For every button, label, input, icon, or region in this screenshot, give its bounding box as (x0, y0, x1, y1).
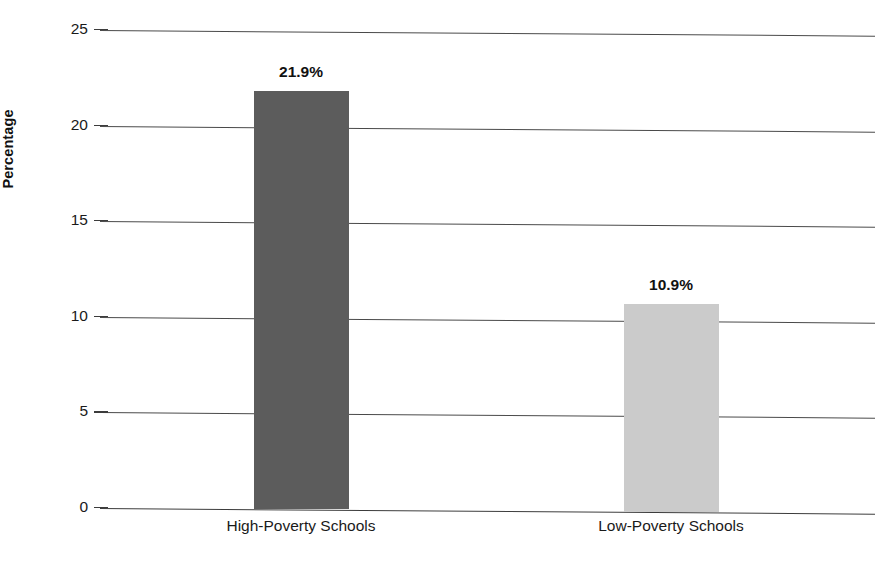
gridline-0 (100, 508, 875, 515)
bar-low-poverty[interactable] (624, 304, 719, 512)
y-axis-tick-mark (94, 125, 108, 126)
x-axis-category-label: High-Poverty Schools (161, 517, 441, 535)
y-axis-tick-label: 20 (28, 117, 88, 133)
gridline-15 (100, 221, 875, 228)
y-axis-tick-mark (94, 220, 108, 221)
y-axis-tick-label: 5 (28, 403, 88, 419)
y-axis-title: Percentage (0, 84, 24, 214)
y-axis-tick-mark (94, 316, 108, 317)
y-axis-tick-mark (94, 411, 108, 412)
gridline-20 (100, 126, 875, 133)
bar-chart: Percentage 0510152025 High-Poverty Schoo… (0, 0, 892, 564)
y-axis-tick-label: 25 (28, 21, 88, 37)
bar-value-label: 10.9% (601, 276, 741, 294)
gridline-25 (100, 30, 875, 37)
y-axis-tick-mark (94, 29, 108, 30)
y-axis-tick-label: 10 (28, 308, 88, 324)
bar-value-label: 21.9% (231, 63, 371, 81)
y-axis-tick-label: 15 (28, 212, 88, 228)
y-axis-tick-label: 0 (28, 499, 88, 515)
chart-title (0, 0, 892, 4)
bar-high-poverty[interactable] (254, 91, 349, 510)
y-axis-tick-mark (94, 507, 108, 508)
gridline-5 (100, 412, 875, 419)
gridline-10 (100, 317, 875, 324)
x-axis-category-label: Low-Poverty Schools (531, 517, 811, 535)
plot-area (100, 30, 875, 508)
